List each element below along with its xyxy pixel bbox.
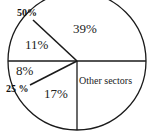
slice-label-11: 11% (25, 37, 49, 52)
annotation-50: 50% (17, 7, 37, 18)
annotation-25: 25 % (6, 83, 29, 94)
pie-chart: 39% 11% 8% 17% Other sectors 50% 25 % (0, 0, 151, 132)
slice-label-39: 39% (73, 21, 97, 36)
slice-label-other-sectors: Other sectors (79, 75, 132, 86)
slice-label-17: 17% (44, 86, 68, 101)
slice-label-8: 8% (16, 63, 34, 78)
